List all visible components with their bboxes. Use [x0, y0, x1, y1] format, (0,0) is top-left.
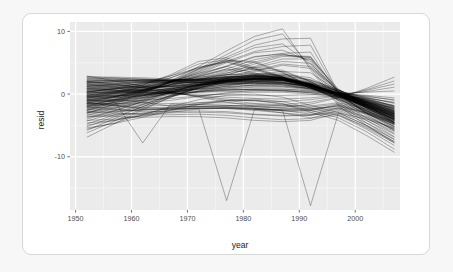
chart-svg: 195019601970198019902000 100-10 year res…: [0, 0, 453, 272]
x-axis-title: year: [232, 240, 249, 250]
y-axis-title: resid: [36, 110, 46, 129]
chart-figure: 195019601970198019902000 100-10 year res…: [0, 0, 453, 272]
x-tick-label: 2000: [347, 214, 363, 223]
y-tick-label: 0: [61, 90, 65, 99]
x-tick-label: 1980: [235, 214, 251, 223]
y-tick-label: -10: [55, 152, 65, 161]
x-tick-label: 1960: [124, 214, 140, 223]
y-tick-label: 10: [57, 27, 65, 36]
x-axis-ticks: [76, 210, 356, 213]
y-axis-tick-labels: 100-10: [55, 27, 65, 161]
y-axis-ticks: [67, 31, 70, 156]
x-tick-label: 1990: [291, 214, 307, 223]
x-tick-label: 1970: [179, 214, 195, 223]
x-axis-tick-labels: 195019601970198019902000: [68, 214, 364, 223]
x-tick-label: 1950: [68, 214, 84, 223]
